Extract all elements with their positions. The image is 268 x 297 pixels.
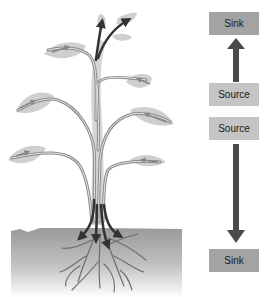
sink-top-box: Sink [209, 12, 259, 35]
source-upper-label: Source [218, 89, 250, 100]
leaf-top-right [116, 13, 137, 25]
sink-top-label: Sink [224, 18, 243, 29]
arrow-down-icon [226, 144, 246, 244]
arrow-up-icon [226, 38, 246, 82]
source-lower-box: Source [209, 117, 259, 140]
leaves [8, 13, 174, 166]
leaf-top-small [112, 34, 132, 41]
sink-bottom-box: Sink [209, 249, 259, 272]
sink-bottom-label: Sink [224, 255, 243, 266]
leaf-upper-right [126, 74, 152, 88]
source-lower-label: Source [218, 123, 250, 134]
phloem-tubes [12, 48, 170, 222]
source-upper-box: Source [209, 83, 259, 106]
plant-illustration [0, 0, 190, 297]
